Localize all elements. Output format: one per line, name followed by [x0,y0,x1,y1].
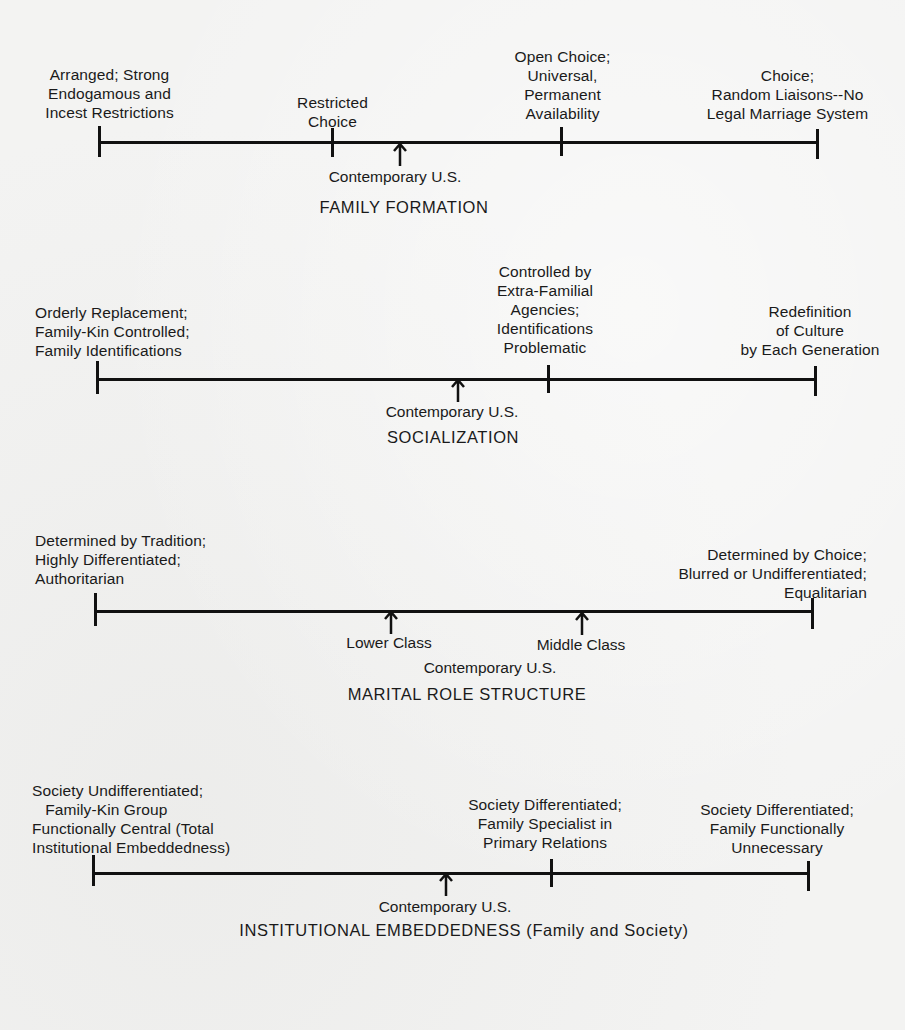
tick-right-end [814,366,817,396]
point-label-open-choice: Open Choice; Universal, Permanent Availa… [505,47,620,123]
arrow-up-lower-class-icon [383,611,399,635]
tick-open-choice [560,127,563,156]
arrow-up-icon [450,379,466,403]
point-label-determined-by-tradition: Determined by Tradition; Highly Differen… [35,531,206,588]
scale-title: INSTITUTIONAL EMBEDDEDNESS (Family and S… [239,921,688,940]
tick-right-end [811,598,814,629]
tick-left-end [98,126,101,157]
marker-label-lower-class: Lower Class [346,634,431,652]
continuum-line [99,141,819,144]
point-label-family-specialist: Society Differentiated; Family Specialis… [450,795,640,852]
scale-title: MARITAL ROLE STRUCTURE [348,685,587,704]
contemporary-us-label: Contemporary U.S. [379,898,512,916]
contemporary-us-label: Contemporary U.S. [386,403,519,421]
tick-restricted-choice [331,128,334,157]
point-label-restricted-choice: Restricted Choice [285,93,380,131]
contemporary-us-label: Contemporary U.S. [424,659,557,677]
marker-label-middle-class: Middle Class [537,636,626,654]
tick-family-specialist [550,859,553,887]
tick-right-end [807,861,810,891]
diagram-page: Arranged; Strong Endogamous and Incest R… [0,0,905,1030]
arrow-up-middle-class-icon [574,612,590,636]
point-label-redefinition: Redefinition of Culture by Each Generati… [715,302,905,359]
contemporary-us-label: Contemporary U.S. [329,168,462,186]
tick-left-end [94,593,97,626]
tick-extra-familial [547,365,550,393]
scale-title: SOCIALIZATION [387,428,519,447]
point-label-orderly-replacement: Orderly Replacement; Family-Kin Controll… [35,303,190,360]
point-label-determined-by-choice: Determined by Choice; Blurred or Undiffe… [645,545,867,602]
continuum-line [95,610,814,613]
point-label-arranged: Arranged; Strong Endogamous and Incest R… [37,65,182,122]
scale-title: FAMILY FORMATION [319,198,488,217]
point-label-family-unnecessary: Society Differentiated; Family Functiona… [682,800,872,857]
arrow-up-icon [392,143,408,167]
tick-left-end [96,361,99,394]
point-label-random-liaisons: Choice; Random Liaisons--No Legal Marria… [695,66,880,123]
tick-left-end [92,855,95,886]
point-label-extra-familial: Controlled by Extra-Familial Agencies; I… [480,262,610,357]
tick-right-end [816,129,819,159]
arrow-up-icon [438,873,454,897]
point-label-society-undifferentiated: Society Undifferentiated; Family-Kin Gro… [32,781,230,857]
